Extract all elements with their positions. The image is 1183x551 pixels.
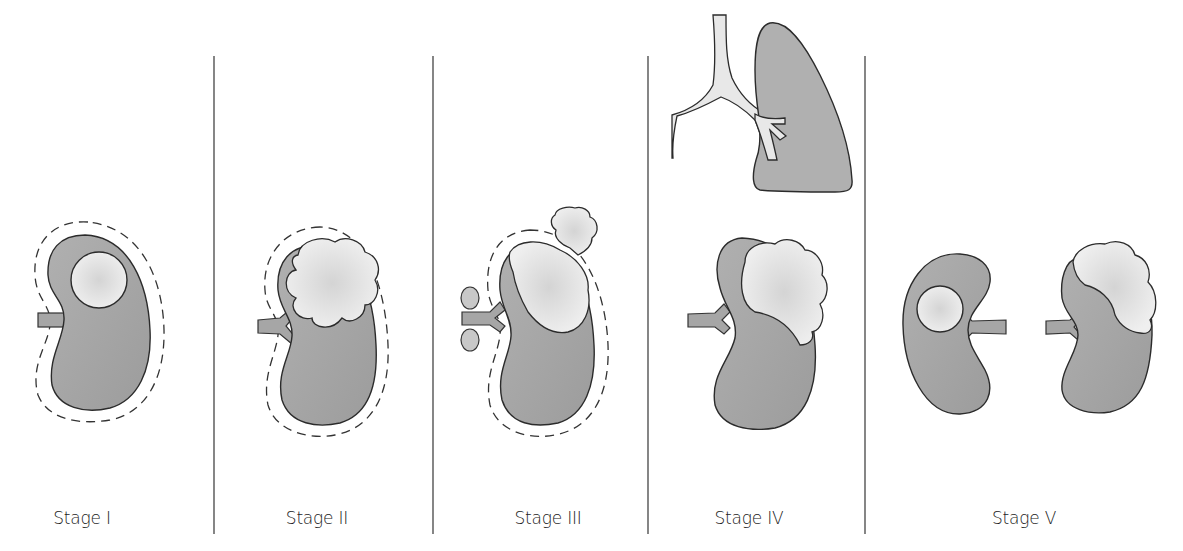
kidney-left — [903, 254, 990, 414]
staging-diagram — [0, 0, 1183, 551]
stage-2-label: Stage II — [286, 508, 348, 528]
lymph-node-upper — [461, 287, 479, 309]
lung — [753, 23, 852, 192]
stage-4-label: Stage IV — [715, 508, 784, 528]
stage-5-label: Stage V — [992, 508, 1056, 528]
stage-5-illustration — [903, 242, 1156, 414]
stage-1-label: Stage I — [53, 508, 111, 528]
ureter — [38, 313, 66, 327]
stage-1-illustration — [35, 222, 164, 422]
renal-vessels — [688, 304, 730, 334]
tumor-left — [917, 286, 963, 332]
peritoneal-spill — [551, 207, 597, 255]
stage-4-illustration — [672, 15, 852, 429]
lymph-node-lower — [461, 329, 479, 351]
tumor — [71, 252, 127, 308]
stage-3-label: Stage III — [514, 508, 581, 528]
stage-3-illustration — [461, 207, 608, 436]
stage-2-illustration — [258, 227, 388, 436]
